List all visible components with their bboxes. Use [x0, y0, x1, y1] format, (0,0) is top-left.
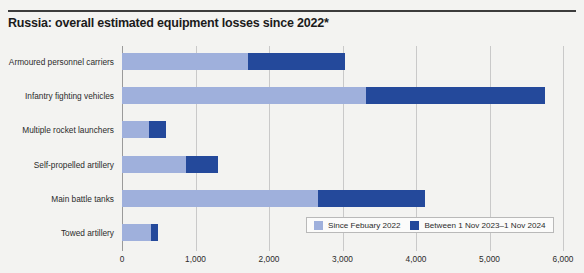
bar-segment-since-2022[interactable]: [122, 121, 149, 138]
legend-label: Between 1 Nov 2023–1 Nov 2024: [424, 221, 545, 230]
stacked-bar[interactable]: [122, 156, 218, 173]
bar-segment-since-2022[interactable]: [122, 224, 151, 241]
category-label: Main battle tanks: [51, 194, 114, 204]
legend-swatch-icon: [410, 221, 419, 230]
x-axis-tick-label: 4,000: [406, 254, 427, 264]
bar-segment-last-year[interactable]: [149, 121, 166, 138]
legend-swatch-icon: [314, 221, 323, 230]
category-label: Armoured personnel carriers: [9, 57, 114, 67]
x-axis-tick-labels: 01,0002,0003,0004,0005,0006,000: [122, 254, 563, 268]
bar-segment-last-year[interactable]: [151, 224, 158, 241]
x-axis-tick-label: 2,000: [259, 254, 280, 264]
bar-row: [122, 183, 563, 217]
category-label: Self-propelled artillery: [34, 160, 114, 170]
page-title: Russia: overall estimated equipment loss…: [8, 16, 329, 30]
bar-segment-since-2022[interactable]: [122, 156, 186, 173]
title-rule: [8, 10, 576, 12]
legend-item[interactable]: Since Febuary 2022: [314, 221, 400, 230]
stacked-bar[interactable]: [122, 87, 545, 104]
bar-segment-since-2022[interactable]: [122, 87, 366, 104]
legend-label: Since Febuary 2022: [328, 221, 400, 230]
bar-row: [122, 114, 563, 148]
x-axis-tick-label: 6,000: [553, 254, 574, 264]
stacked-bar[interactable]: [122, 190, 425, 207]
bar-row: [122, 80, 563, 114]
x-axis-tick-label: 1,000: [185, 254, 206, 264]
bar-segment-since-2022[interactable]: [122, 53, 248, 70]
x-axis-tick-label: 3,000: [332, 254, 353, 264]
x-axis-tick-label: 5,000: [479, 254, 500, 264]
chart-figure: Russia: overall estimated equipment loss…: [0, 0, 584, 273]
gridline: [563, 46, 564, 251]
stacked-bar[interactable]: [122, 53, 345, 70]
category-label: Towed artillery: [61, 228, 114, 238]
stacked-bar[interactable]: [122, 224, 158, 241]
bar-segment-last-year[interactable]: [318, 190, 425, 207]
category-label: Infantry fighting vehicles: [25, 91, 114, 101]
legend-item[interactable]: Between 1 Nov 2023–1 Nov 2024: [410, 221, 545, 230]
bar-row: [122, 149, 563, 183]
bar-segment-since-2022[interactable]: [122, 190, 318, 207]
bar-segment-last-year[interactable]: [248, 53, 345, 70]
bar-segment-last-year[interactable]: [186, 156, 218, 173]
category-label: Multiple rocket launchers: [22, 125, 114, 135]
category-axis-labels: Armoured personnel carriersInfantry figh…: [0, 46, 118, 251]
bar-segment-last-year[interactable]: [366, 87, 545, 104]
chart-legend: Since Febuary 2022Between 1 Nov 2023–1 N…: [306, 217, 554, 233]
bar-row: [122, 46, 563, 80]
x-axis-tick-label: 0: [120, 254, 125, 264]
stacked-bar[interactable]: [122, 121, 166, 138]
